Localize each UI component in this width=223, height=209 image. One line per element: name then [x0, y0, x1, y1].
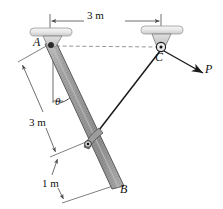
left-dim-ext-collar — [50, 142, 86, 157]
label-point-a: A — [33, 36, 40, 48]
dimension-bottom-1m: 1 m — [42, 178, 59, 189]
rod-ab — [45, 42, 124, 189]
mechanics-diagram: A B C P θ 3 m 3 m 1 m — [0, 0, 223, 209]
reference-line-ac — [56, 46, 158, 47]
rod-left-edge-hatch — [45, 43, 117, 189]
force-p-arrow — [164, 51, 203, 73]
pin-a — [48, 42, 53, 47]
collar-pin-center-dot — [87, 143, 90, 146]
diagram-canvas — [0, 0, 223, 209]
label-force-p: P — [205, 63, 212, 75]
rod-right-edge-hatch — [53, 42, 125, 187]
support-c — [141, 26, 183, 52]
left-dim-line-3m-lower — [46, 128, 56, 152]
left-dim-ext-b — [62, 186, 113, 203]
label-point-b: B — [120, 183, 127, 195]
pulley-c-center-dot — [160, 46, 163, 49]
support-c-block — [141, 26, 183, 34]
left-dim-line-3m-upper — [23, 65, 44, 112]
dimension-left-3m: 3 m — [29, 117, 46, 128]
dimension-top-3m: 3 m — [87, 10, 104, 21]
left-dim-line-1m-lower — [58, 188, 64, 199]
left-dim-line-1m-upper — [52, 159, 58, 175]
rod-center-highlight — [51, 43, 119, 188]
label-point-c: C — [155, 51, 163, 63]
label-angle-theta: θ — [55, 96, 60, 107]
